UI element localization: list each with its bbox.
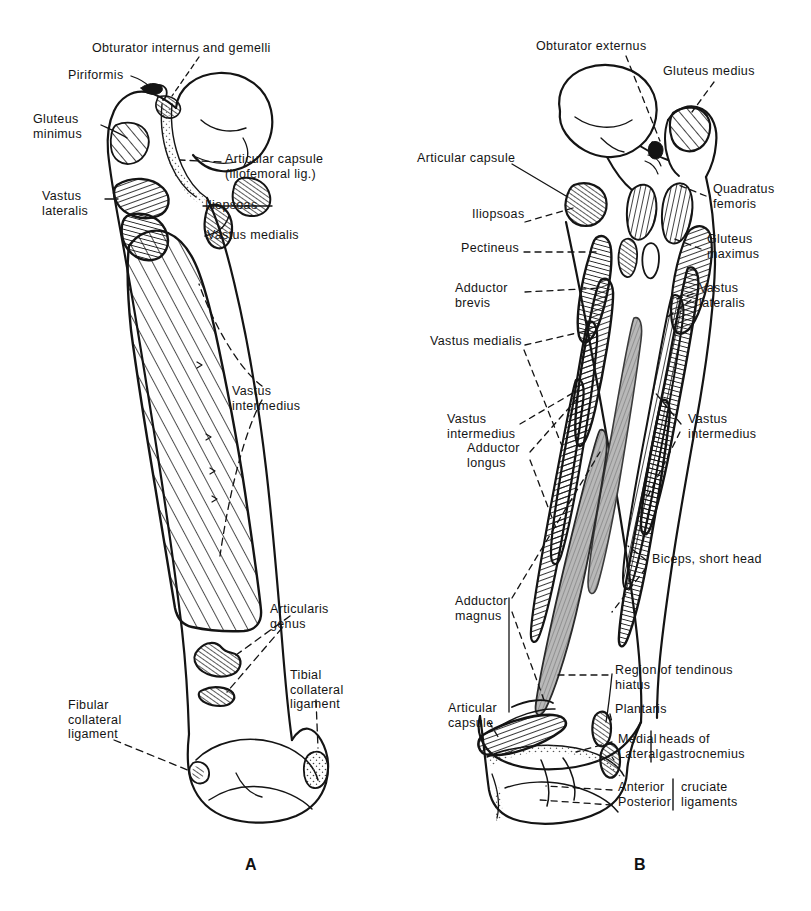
label-adductor-magnus: Adductor magnus [455, 594, 508, 623]
leader-fibular-collateral [114, 740, 190, 771]
label-obturator-externus: Obturator externus [536, 39, 647, 54]
label-vastus-lateralis-a: Vastus lateralis [42, 189, 88, 218]
label-plantaris: Plantaris [615, 702, 667, 717]
label-vastus-lateralis-b: Vastus lateralis [699, 281, 745, 310]
femur-anatomy-illustration [0, 0, 811, 911]
label-vastus-intermedius-a: Vastus intermedius [232, 384, 300, 413]
label-articular-capsule-b-top: Articular capsule [417, 151, 515, 166]
label-pectineus: Pectineus [461, 241, 519, 256]
label-tibial-collateral-ligament: Tibial collateral ligament [290, 668, 344, 712]
label-articular-capsule-iliofemoral: Articular capsule (iliofemoral lig.) [225, 152, 323, 181]
label-fibular-collateral-ligament: Fibular collateral ligament [68, 698, 122, 742]
label-adductor-brevis: Adductor brevis [455, 281, 508, 310]
label-vastus-intermedius-b-right: Vastus intermedius [688, 412, 756, 441]
label-vastus-medialis-b: Vastus medialis [430, 334, 522, 349]
label-obturator-internus-and-gemelli: Obturator internus and gemelli [92, 41, 271, 56]
figure-label-b: B [634, 856, 646, 874]
label-heads-of-gastrocnemius: heads of gastrocnemius [659, 732, 745, 761]
label-adductor-longus: Adductor longus [467, 441, 520, 470]
figure-label-a: A [245, 856, 257, 874]
label-gluteus-maximus: Gluteus maximus [707, 232, 759, 261]
label-posterior-cruciate: Posterior [618, 795, 671, 810]
label-quadratus-femoris: Quadratus femoris [713, 182, 775, 211]
leader-vastus-medialis-b2 [524, 350, 562, 446]
leader-articular-capsule-b-top [512, 164, 566, 196]
label-vastus-intermedius-b-left: Vastus intermedius [447, 412, 515, 441]
label-articular-capsule-b-bottom: Articular capsule [448, 701, 497, 730]
leader-posterior-cruciate [540, 800, 612, 805]
label-anterior-cruciate: Anterior [618, 780, 665, 795]
label-biceps-short-head: Biceps, short head [652, 552, 762, 567]
label-articularis-genus: Articularis genus [270, 602, 329, 631]
panel-a-leaders [172, 57, 199, 96]
label-medial-head: Medial [618, 732, 657, 747]
figure-page: Obturator internus and gemelli Piriformi… [0, 0, 811, 911]
label-gluteus-medius: Gluteus medius [663, 64, 755, 79]
leader-obturator-internus [172, 57, 199, 96]
leader-anterior-cruciate [546, 786, 612, 790]
label-region-of-tendinous-hiatus: Region of tendinous hiatus [615, 663, 733, 692]
label-lateral-head: Lateral [618, 747, 659, 762]
label-cruciate-ligaments: cruciate ligaments [681, 780, 738, 809]
label-iliopsoas-a: Iliopsoas [205, 198, 258, 213]
label-gluteus-minimus: Gluteus minimus [33, 112, 82, 141]
label-iliopsoas-b: Iliopsoas [472, 207, 525, 222]
label-vastus-medialis-a: Vastus medialis [207, 228, 299, 243]
label-piriformis: Piriformis [68, 68, 124, 83]
